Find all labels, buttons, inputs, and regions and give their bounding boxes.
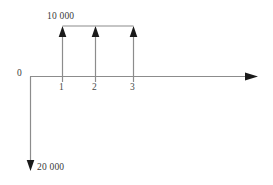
outflow-arrow bbox=[27, 77, 35, 172]
inflow-arrowhead-icon-3 bbox=[130, 26, 138, 37]
outflow-amount-label: 20 000 bbox=[37, 163, 64, 173]
time-axis-arrowhead-icon bbox=[245, 73, 258, 81]
axis-tick-label-1: 1 bbox=[59, 83, 64, 93]
inflow-arrowhead-icon-1 bbox=[59, 26, 67, 37]
cash-flow-drawing bbox=[0, 0, 273, 185]
axis-tick-label-3: 3 bbox=[130, 83, 135, 93]
axis-tick-label-2: 2 bbox=[92, 83, 97, 93]
axis-tick-marks bbox=[63, 77, 134, 83]
time-axis bbox=[30, 73, 258, 81]
cash-flow-diagram: 10 000 0 20 000 1 2 3 bbox=[0, 0, 273, 185]
outflow-arrowhead-icon bbox=[27, 160, 35, 171]
origin-label: 0 bbox=[17, 69, 22, 79]
inflow-arrowhead-icon-2 bbox=[92, 26, 100, 37]
inflow-amount-label: 10 000 bbox=[47, 12, 74, 22]
inflow-arrows bbox=[59, 26, 138, 77]
